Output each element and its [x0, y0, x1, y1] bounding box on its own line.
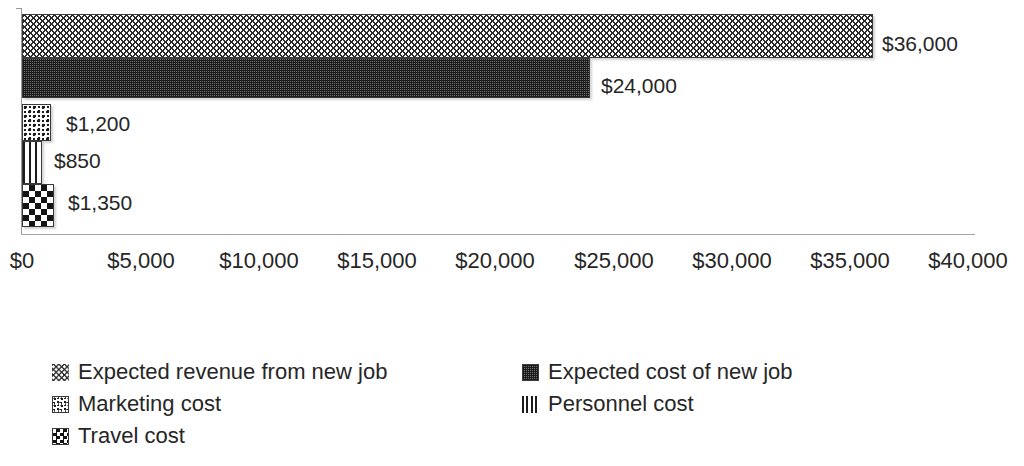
chart-legend: Expected revenue from new job Expected c… [52, 356, 952, 452]
legend-item-expected-cost-of-new-job[interactable]: Expected cost of new job [522, 361, 793, 383]
x-axis-line [22, 234, 975, 235]
x-tick-label: $5,000 [107, 250, 174, 272]
legend-label: Expected cost of new job [548, 361, 793, 383]
x-tick-label: $40,000 [928, 250, 1008, 272]
x-tick-label: $15,000 [337, 250, 417, 272]
legend-row: Marketing cost Personnel cost [52, 388, 952, 420]
plot-area [22, 8, 975, 234]
legend-item-personnel-cost[interactable]: Personnel cost [522, 393, 694, 415]
bar-expected-cost-of-new-job[interactable] [22, 58, 590, 98]
legend-swatch-scattered-dots-icon [52, 396, 69, 413]
legend-row: Expected revenue from new job Expected c… [52, 356, 952, 388]
legend-label: Expected revenue from new job [78, 361, 387, 383]
data-label-expected-cost: $24,000 [601, 75, 677, 96]
x-tick-label: $35,000 [810, 250, 890, 272]
bar-marketing-cost[interactable] [22, 104, 51, 141]
data-label-travel-cost: $1,350 [68, 192, 132, 213]
legend-item-travel-cost[interactable]: Travel cost [52, 425, 522, 447]
legend-swatch-zigzag-wave-icon [52, 364, 69, 381]
bar-travel-cost[interactable] [22, 184, 54, 227]
legend-label: Personnel cost [548, 393, 694, 415]
legend-item-expected-revenue-from-new-job[interactable]: Expected revenue from new job [52, 361, 522, 383]
data-label-marketing-cost: $1,200 [66, 113, 130, 134]
data-label-personnel-cost: $850 [54, 150, 101, 171]
legend-swatch-large-checkerboard-icon [52, 428, 69, 445]
x-tick-label: $30,000 [692, 250, 772, 272]
data-label-expected-revenue: $36,000 [882, 33, 958, 54]
legend-label: Travel cost [78, 425, 185, 447]
x-tick-label: $20,000 [455, 250, 535, 272]
bar-chart: $36,000 $24,000 $1,200 $850 $1,350 $0 $5… [0, 0, 1024, 300]
x-tick-label: $25,000 [574, 250, 654, 272]
legend-label: Marketing cost [78, 393, 221, 415]
x-axis-tick-labels: $0 $5,000 $10,000 $15,000 $20,000 $25,00… [0, 250, 1024, 284]
legend-swatch-dense-checker-icon [522, 364, 539, 381]
legend-item-marketing-cost[interactable]: Marketing cost [52, 393, 522, 415]
legend-swatch-vertical-lines-icon [522, 396, 539, 413]
x-tick-label: $10,000 [219, 250, 299, 272]
bar-expected-revenue-from-new-job[interactable] [22, 14, 873, 58]
bar-personnel-cost[interactable] [22, 141, 42, 184]
x-tick-label: $0 [10, 250, 34, 272]
legend-row: Travel cost [52, 420, 952, 452]
